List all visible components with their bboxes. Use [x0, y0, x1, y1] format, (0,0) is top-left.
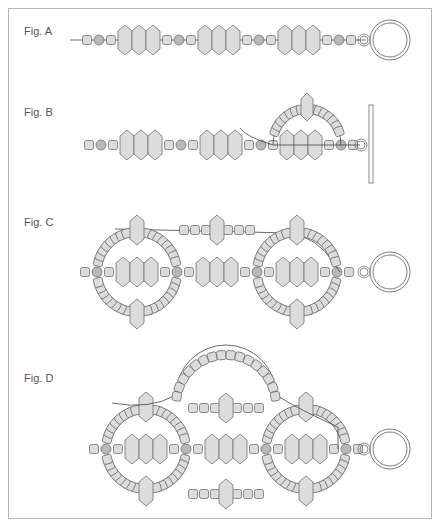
seed-bead: [81, 268, 90, 277]
round-bead: [254, 35, 264, 45]
seed-bead: [161, 268, 170, 277]
drop-bead: [290, 299, 304, 329]
seed-bead: [233, 404, 242, 413]
drop-bead: [219, 479, 233, 509]
drop-bead: [139, 392, 153, 422]
seed-bead: [109, 141, 118, 150]
drop-bead: [130, 299, 144, 329]
seed-bead: [244, 404, 253, 413]
seed-bead: [114, 445, 123, 454]
round-bead: [101, 444, 111, 454]
drop-bead: [118, 25, 132, 55]
seed-bead: [347, 36, 356, 45]
drop-bead: [146, 25, 160, 55]
drop-bead: [226, 25, 240, 55]
seed-bead: [330, 445, 339, 454]
seed-bead: [330, 256, 341, 267]
seed-bead: [207, 351, 218, 362]
drop-bead: [299, 434, 313, 464]
seed-bead: [179, 433, 190, 444]
drop-bead: [292, 25, 306, 55]
seed-bead: [191, 226, 200, 235]
seed-bead: [187, 36, 196, 45]
seed-bead: [83, 36, 92, 45]
seed-bead: [211, 490, 220, 499]
seed-bead: [255, 404, 264, 413]
seed-bead: [180, 226, 189, 235]
drop-bead: [125, 434, 139, 464]
seed-bead: [243, 36, 252, 45]
drop-bead: [130, 257, 144, 287]
round-bead: [172, 267, 182, 277]
toggle-bar: [369, 105, 373, 183]
seed-bead: [267, 36, 276, 45]
seed-bead: [339, 433, 350, 444]
clasp-ring: [373, 432, 407, 466]
drop-bead: [132, 25, 146, 55]
drop-bead: [210, 215, 224, 245]
drop-bead: [210, 257, 224, 287]
seed-bead: [85, 141, 94, 150]
drop-bead: [198, 25, 212, 55]
seed-bead: [185, 268, 194, 277]
drop-bead: [139, 434, 153, 464]
seed-bead: [200, 490, 209, 499]
seed-bead: [107, 36, 116, 45]
drop-bead: [219, 393, 233, 423]
drop-bead: [153, 434, 167, 464]
drop-bead: [214, 130, 228, 160]
seed-bead: [233, 490, 242, 499]
clasp-ring: [373, 23, 407, 57]
seed-bead: [270, 391, 280, 401]
drop-bead: [130, 215, 144, 245]
seed-bead: [253, 277, 264, 288]
beading-diagram: [0, 0, 442, 527]
seed-bead: [102, 454, 113, 465]
seed-bead: [165, 141, 174, 150]
seed-bead: [170, 445, 179, 454]
drop-bead: [196, 257, 210, 287]
clasp-ring: [370, 252, 410, 292]
drop-bead: [290, 257, 304, 287]
seed-bead: [189, 141, 198, 150]
drop-bead: [299, 392, 313, 422]
round-bead: [176, 140, 186, 150]
seed-bead: [244, 490, 253, 499]
drop-bead: [313, 434, 327, 464]
seed-bead: [246, 226, 255, 235]
drop-bead: [219, 434, 233, 464]
seed-bead: [235, 226, 244, 235]
seed-bead: [245, 141, 254, 150]
drop-bead: [148, 130, 162, 160]
drop-bead: [228, 130, 242, 160]
drop-bead: [276, 257, 290, 287]
drop-bead: [200, 130, 214, 160]
drop-bead: [233, 434, 247, 464]
drop-bead: [290, 215, 304, 245]
seed-bead: [194, 445, 203, 454]
seed-bead: [262, 454, 273, 465]
seed-bead: [323, 36, 332, 45]
drop-bead: [306, 25, 320, 55]
seed-bead: [226, 350, 236, 360]
drop-bead: [139, 476, 153, 506]
seed-bead: [274, 445, 283, 454]
round-bead: [261, 444, 271, 454]
clasp-ring: [370, 20, 410, 60]
round-bead: [181, 444, 191, 454]
seed-bead: [163, 36, 172, 45]
drop-bead: [134, 130, 148, 160]
drop-bead: [299, 476, 313, 506]
round-bead: [92, 267, 102, 277]
seed-bead: [321, 268, 330, 277]
round-bead: [174, 35, 184, 45]
drop-bead: [144, 257, 158, 287]
seed-bead: [170, 256, 181, 267]
seed-bead: [105, 268, 114, 277]
round-bead: [334, 35, 344, 45]
seed-bead: [216, 350, 226, 360]
seed-bead: [90, 445, 99, 454]
seed-bead: [250, 445, 259, 454]
round-bead: [252, 267, 262, 277]
round-bead: [332, 267, 342, 277]
